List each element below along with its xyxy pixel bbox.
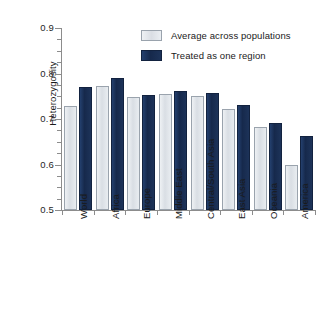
heterozygosity-bar-chart: Heterozygosity 0.90.80.70.60.5 WorldAfri… [0, 0, 322, 324]
bar-group [96, 28, 124, 210]
x-tick [283, 210, 284, 215]
x-tick [62, 210, 63, 215]
x-tick [125, 210, 126, 215]
bar-average-across-populations[interactable] [254, 127, 267, 210]
x-tick [94, 210, 95, 215]
y-tick-minor [57, 96, 61, 97]
y-tick-major [55, 74, 61, 75]
x-axis-label: East Asia [236, 178, 247, 219]
bar-group [64, 28, 92, 210]
x-axis-label: Central/South Asia [205, 139, 216, 220]
bar-average-across-populations[interactable] [222, 109, 235, 210]
legend-swatch-one-region-icon [141, 50, 162, 61]
x-tick [315, 210, 316, 215]
legend-swatch-average-icon [141, 30, 162, 41]
y-tick-major [55, 119, 61, 120]
legend-label-one-region: Treated as one region [171, 50, 266, 61]
y-tick-label: 0.7 [14, 113, 54, 124]
y-tick-minor [57, 176, 61, 177]
x-tick [220, 210, 221, 215]
bar-treated-as-one-region[interactable] [79, 87, 92, 210]
x-tick [252, 210, 253, 215]
bar-treated-as-one-region[interactable] [111, 78, 124, 210]
legend-item-average: Average across populations [141, 27, 291, 43]
y-tick-label: 0.6 [14, 159, 54, 170]
bar-average-across-populations[interactable] [127, 97, 140, 210]
y-tick-minor [57, 187, 61, 188]
y-tick-minor [57, 142, 61, 143]
x-axis-label: America [299, 183, 310, 219]
y-tick-minor [57, 108, 61, 109]
x-tick [189, 210, 190, 215]
bar-average-across-populations[interactable] [96, 86, 109, 210]
y-tick-label: 0.8 [14, 68, 54, 79]
y-tick-major [55, 165, 61, 166]
bar-average-across-populations[interactable] [159, 94, 172, 210]
x-axis-label: Oceania [268, 183, 279, 219]
x-tick [157, 210, 158, 215]
y-tick-minor [57, 85, 61, 86]
y-tick-minor [57, 62, 61, 63]
x-axis-label: Africa [110, 194, 121, 219]
y-tick-minor [57, 39, 61, 40]
legend-item-one-region: Treated as one region [141, 47, 291, 63]
x-axis-label: Middle East [173, 168, 184, 219]
bar-average-across-populations[interactable] [285, 165, 298, 211]
y-tick-minor [57, 130, 61, 131]
y-tick-minor [57, 153, 61, 154]
x-axis-label: Europe [141, 188, 152, 219]
y-tick-minor [57, 199, 61, 200]
x-axis-label: World [78, 194, 89, 219]
bar-average-across-populations[interactable] [191, 96, 204, 210]
bar-average-across-populations[interactable] [64, 106, 77, 210]
y-tick-label: 0.5 [14, 204, 54, 215]
y-tick-minor [57, 51, 61, 52]
y-axis-title: Heterozygosity [47, 34, 58, 154]
chart-legend: Average across populations Treated as on… [141, 27, 291, 67]
legend-label-average: Average across populations [171, 30, 291, 41]
y-tick-major [55, 28, 61, 29]
y-tick-label: 0.9 [14, 22, 54, 33]
y-tick-major [55, 210, 61, 211]
